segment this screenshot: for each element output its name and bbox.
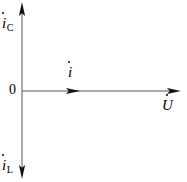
label-voltage: U (162, 98, 173, 113)
label-u-base: U (162, 98, 173, 113)
label-total-current: i (68, 65, 72, 80)
label-inductive-current: iL (2, 158, 13, 175)
axes-drawing (0, 0, 187, 182)
label-il-base: i (2, 158, 6, 173)
label-ic-base: i (2, 16, 6, 31)
label-i-base: i (68, 65, 72, 80)
label-capacitive-current: iC (2, 16, 13, 33)
phasor-diagram: iC iL 0 i U (0, 0, 187, 182)
label-ic-subscript: C (7, 23, 14, 33)
label-origin: 0 (9, 83, 16, 97)
label-il-subscript: L (7, 165, 13, 175)
